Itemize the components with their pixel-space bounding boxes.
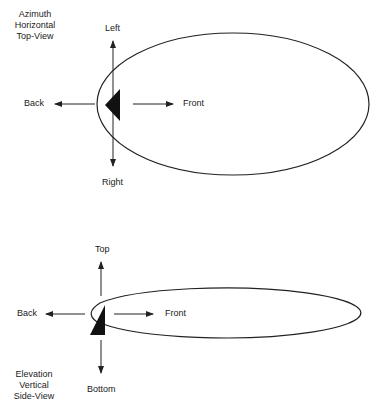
title-line-2: Vertical <box>11 380 57 391</box>
title-line-2: Horizontal <box>12 20 58 31</box>
label-left: Left <box>105 23 120 34</box>
label-top: Top <box>95 244 110 255</box>
label-back: Back <box>24 98 44 109</box>
title-line-3: Side-View <box>11 391 57 402</box>
title-line-1: Azimuth <box>12 9 58 20</box>
antenna-pattern-diagram <box>0 0 379 409</box>
label-back-side: Back <box>17 308 37 319</box>
label-bottom: Bottom <box>87 384 116 395</box>
title-line-3: Top-View <box>12 31 58 42</box>
side-view-title: Elevation Vertical Side-View <box>11 369 57 402</box>
label-front-side: Front <box>165 308 186 319</box>
top-view-diagram <box>55 33 369 175</box>
label-front: Front <box>183 98 204 109</box>
title-line-1: Elevation <box>11 369 57 380</box>
label-right: Right <box>102 177 123 188</box>
side-view-diagram <box>46 262 361 373</box>
top-view-title: Azimuth Horizontal Top-View <box>12 9 58 42</box>
elevation-pattern-ellipse <box>91 288 361 338</box>
